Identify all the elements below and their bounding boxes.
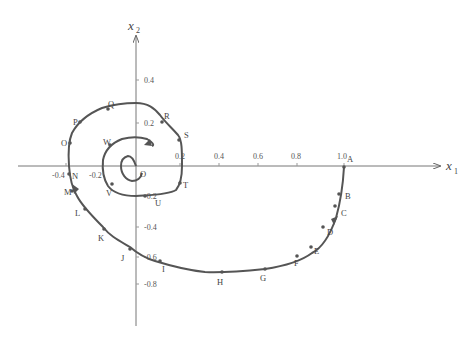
label-d: D xyxy=(327,227,333,237)
x-axis: x 1 xyxy=(18,158,458,176)
arrow-c-icon xyxy=(331,216,338,225)
point-labels: A B C D E F G H I J K L M N O P Q R S T … xyxy=(61,99,354,287)
label-i: I xyxy=(162,264,165,274)
point-j xyxy=(128,247,132,251)
point-l xyxy=(83,207,87,211)
point-h xyxy=(220,270,224,274)
point-k xyxy=(102,227,106,231)
x-tick-0.6: 0.6 xyxy=(253,152,263,161)
label-g: G xyxy=(260,273,266,283)
label-origin: O xyxy=(140,169,146,179)
x-axis-label: x xyxy=(445,158,452,173)
x-tick-0.8: 0.8 xyxy=(291,152,301,161)
label-h: H xyxy=(217,277,223,287)
point-a xyxy=(342,165,346,169)
label-n: N xyxy=(72,171,78,181)
point-n xyxy=(67,172,71,176)
point-s xyxy=(177,138,181,142)
point-u xyxy=(143,194,147,198)
y-axis-subscript: 2 xyxy=(136,26,140,35)
phase-plane-diagram: x 1 x 2 -0.4 -0.2 0.2 0.4 0.6 0.8 1.0 0.… xyxy=(0,0,472,341)
point-c xyxy=(333,204,337,208)
point-t xyxy=(178,181,182,185)
x-tick-neg0.2: -0.2 xyxy=(89,171,102,180)
y-tick-neg0.4: -0.4 xyxy=(144,223,157,232)
label-v: V xyxy=(106,188,113,198)
label-j: J xyxy=(121,253,125,263)
x-tick-neg0.4: -0.4 xyxy=(52,171,65,180)
label-w: W xyxy=(103,137,111,147)
label-l: L xyxy=(75,208,80,218)
label-u: U xyxy=(155,198,161,208)
label-s: S xyxy=(184,130,189,140)
point-d xyxy=(321,225,325,229)
y-tick-0.2: 0.2 xyxy=(144,119,154,128)
label-e: E xyxy=(314,246,319,256)
y-axis: x 2 xyxy=(127,18,140,326)
x-tick-0.4: 0.4 xyxy=(214,152,224,161)
y-axis-label: x xyxy=(127,18,134,33)
label-b: B xyxy=(345,191,351,201)
arrow-m-icon xyxy=(72,184,79,194)
label-k: K xyxy=(98,233,105,243)
y-tick-0.4: 0.4 xyxy=(144,76,154,85)
label-p: P xyxy=(73,117,78,127)
point-v xyxy=(110,182,114,186)
label-m: M xyxy=(64,187,72,197)
label-a: A xyxy=(347,154,354,164)
x-tick-1.0: 1.0 xyxy=(337,152,347,161)
label-q: Q xyxy=(108,99,114,109)
y-tick-neg0.8: -0.8 xyxy=(144,280,157,289)
x-axis-subscript: 1 xyxy=(454,167,458,176)
point-p xyxy=(78,120,82,124)
point-e xyxy=(309,245,313,249)
point-g xyxy=(263,267,267,271)
point-o xyxy=(68,141,72,145)
label-f: F xyxy=(294,258,299,268)
label-r: R xyxy=(164,111,170,121)
label-t: T xyxy=(183,180,189,190)
x-tick-0.2: 0.2 xyxy=(175,152,185,161)
label-c: C xyxy=(341,208,347,218)
label-o: O xyxy=(61,138,67,148)
point-i xyxy=(158,259,162,263)
point-b xyxy=(337,192,341,196)
